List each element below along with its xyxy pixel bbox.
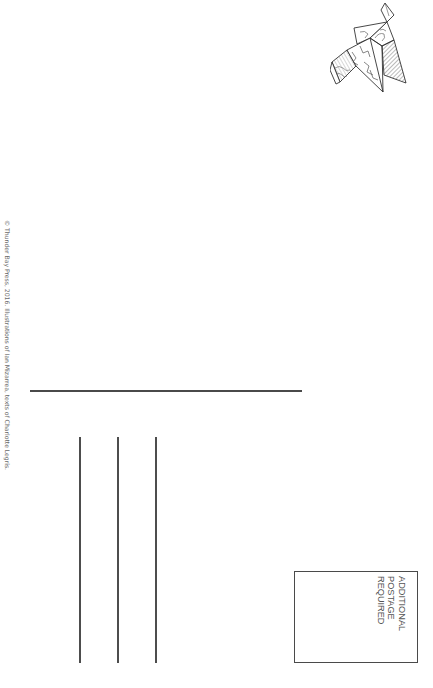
address-line-2 bbox=[117, 437, 119, 663]
message-divider-line bbox=[30, 390, 302, 392]
address-line-3 bbox=[155, 437, 157, 663]
stamp-label-line-3: REQUIRED bbox=[376, 576, 387, 631]
stamp-label-line-1: ADDITIONAL bbox=[397, 576, 408, 631]
copyright-text: © Thunder Bay Press, 2016. Illustrations… bbox=[3, 220, 11, 462]
stamp-label: ADDITIONAL POSTAGE REQUIRED bbox=[376, 576, 408, 631]
address-line-1 bbox=[79, 437, 81, 663]
stamp-box: ADDITIONAL POSTAGE REQUIRED bbox=[294, 571, 418, 663]
postcard-back: © Thunder Bay Press, 2016. Illustrations… bbox=[0, 0, 433, 688]
stamp-label-line-2: POSTAGE bbox=[386, 576, 397, 631]
origami-bird-icon bbox=[330, 0, 433, 100]
